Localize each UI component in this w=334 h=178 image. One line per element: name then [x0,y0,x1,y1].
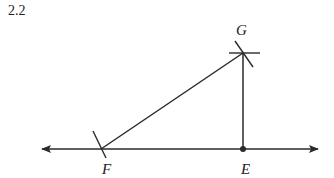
label-f: F [101,161,112,177]
geometry-diagram: G F E [0,0,334,178]
arc-mark-f-slanted [93,131,106,158]
arc-mark-g-slanted [235,41,253,67]
point-e-dot [240,146,246,152]
segment-fg [101,53,243,149]
label-e: E [240,161,250,177]
label-g: G [236,22,247,38]
